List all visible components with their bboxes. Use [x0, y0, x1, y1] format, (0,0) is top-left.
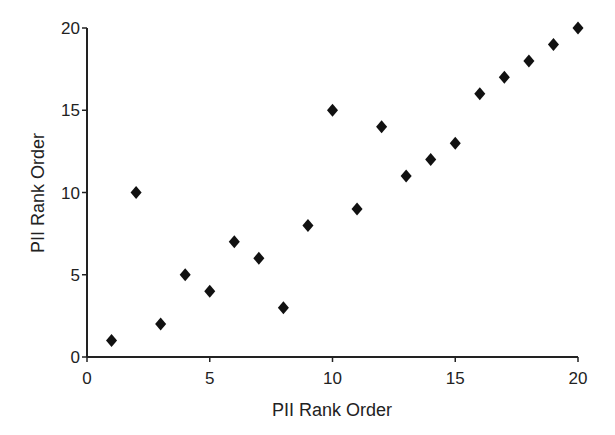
diamond-marker — [253, 252, 264, 265]
diamond-marker — [376, 120, 387, 133]
y-axis: 05101520 — [61, 19, 87, 367]
diamond-marker — [229, 235, 240, 248]
x-axis-title: PII Rank Order — [272, 400, 392, 420]
x-tick-label: 10 — [323, 369, 342, 388]
x-tick-label: 20 — [569, 369, 588, 388]
y-tick-label: 15 — [61, 101, 80, 120]
diamond-marker — [450, 137, 461, 150]
x-tick-label: 5 — [205, 369, 214, 388]
x-axis: 05101520 — [82, 357, 587, 388]
diamond-marker — [278, 301, 289, 314]
diamond-marker — [523, 54, 534, 67]
diamond-marker — [327, 104, 338, 117]
diamond-marker — [572, 22, 583, 35]
diamond-marker — [180, 268, 191, 281]
y-axis-title: PII Rank Order — [28, 133, 48, 253]
diamond-marker — [401, 170, 412, 183]
y-tick-label: 0 — [71, 348, 80, 367]
data-points — [106, 22, 584, 348]
scatter-chart: 05101520 05101520 PII Rank Order PII Ran… — [0, 0, 615, 435]
diamond-marker — [131, 186, 142, 199]
y-tick-label: 10 — [61, 184, 80, 203]
diamond-marker — [204, 285, 215, 298]
x-tick-label: 0 — [82, 369, 91, 388]
diamond-marker — [425, 153, 436, 166]
x-tick-label: 15 — [446, 369, 465, 388]
diamond-marker — [106, 334, 117, 347]
diamond-marker — [474, 87, 485, 100]
y-tick-label: 20 — [61, 19, 80, 38]
diamond-marker — [352, 202, 363, 215]
diamond-marker — [548, 38, 559, 51]
y-tick-label: 5 — [71, 266, 80, 285]
diamond-marker — [499, 71, 510, 84]
diamond-marker — [155, 318, 166, 331]
diamond-marker — [302, 219, 313, 232]
